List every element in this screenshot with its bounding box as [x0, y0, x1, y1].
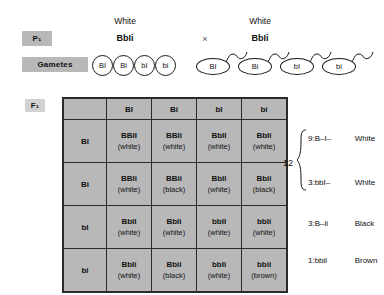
punnett-cell: bbii (brown)	[242, 249, 288, 293]
ratio-genotype: bbI–	[315, 178, 355, 187]
punnett-row-header: Bi	[63, 163, 107, 206]
punnett-cell: BbII (white)	[197, 120, 242, 163]
punnett-corner-cell	[63, 98, 107, 120]
sperm-gamete-label: bI	[280, 58, 314, 75]
punnett-square: BI Bi bI bi BI BBII (white) BBIi (white)…	[62, 97, 288, 293]
cell-phenotype: (white)	[197, 141, 241, 152]
ratio-phenotype: Black	[355, 219, 375, 228]
punnett-row: Bi BBIi (white) BBii (black) BbIi (white…	[63, 163, 287, 206]
cell-phenotype: (white)	[107, 227, 151, 238]
cell-genotype: BBii	[152, 173, 196, 184]
punnett-cell: bbII (white)	[197, 206, 242, 249]
ratio-phenotype: White	[355, 134, 375, 143]
cell-genotype: bbii	[242, 259, 286, 270]
punnett-cell: BbIi (white)	[197, 163, 242, 206]
punnett-row: BI BBII (white) BBIi (white) BbII (white…	[63, 120, 287, 163]
cell-genotype: bbIi	[242, 216, 286, 227]
punnett-cell: Bbii (black)	[242, 163, 288, 206]
cell-genotype: BBIi	[107, 173, 151, 184]
cell-phenotype: (white)	[152, 141, 196, 152]
cell-genotype: BBII	[107, 130, 151, 141]
sperm-gamete-label: Bi	[238, 58, 272, 75]
cross-symbol: ×	[198, 34, 212, 44]
punnett-row-header: bi	[63, 249, 107, 293]
cell-phenotype: (white)	[107, 270, 151, 281]
cell-phenotype: (white)	[197, 184, 241, 195]
punnett-cell: BbIi (white)	[242, 120, 288, 163]
parent2-genotype: BbIi	[215, 33, 305, 43]
ratio-genotype: bbii	[315, 256, 355, 265]
ratio-genotype: B–I–	[315, 134, 355, 143]
cell-phenotype: (white)	[197, 270, 241, 281]
sperm-gamete-label: BI	[196, 58, 230, 75]
cell-genotype: bbIi	[197, 259, 241, 270]
ratio-count: 1:	[308, 256, 315, 265]
parent1-phenotype: White	[80, 16, 170, 26]
punnett-column-header: bI	[197, 98, 242, 120]
cell-genotype: Bbii	[242, 173, 286, 184]
p1-generation-label: P₁	[22, 31, 52, 46]
ratio-count: 9:	[308, 134, 315, 143]
punnett-cell: BBIi (white)	[152, 120, 197, 163]
cell-genotype: BbIi	[197, 173, 241, 184]
ratio-genotype: B–ii	[315, 219, 355, 228]
punnett-column-header: Bi	[152, 98, 197, 120]
punnett-cell: BbIi (white)	[107, 249, 152, 293]
f1-generation-label: F₁	[25, 99, 45, 112]
cell-genotype: Bbii	[152, 259, 196, 270]
punnett-column-header: bi	[242, 98, 288, 120]
ratio-count: 3:	[308, 178, 315, 187]
cell-genotype: BbII	[107, 216, 151, 227]
cell-phenotype: (brown)	[242, 270, 286, 281]
ratio-count: 3:	[308, 219, 315, 228]
punnett-row-header: BI	[63, 120, 107, 163]
punnett-cell: Bbii (black)	[152, 249, 197, 293]
egg-gamete: bi	[155, 55, 176, 76]
punnett-column-header: BI	[107, 98, 152, 120]
gametes-label: Gametes	[22, 57, 88, 72]
cell-phenotype: (black)	[242, 184, 286, 195]
cell-phenotype: (white)	[107, 184, 151, 195]
punnett-row: bi BbIi (white) Bbii (black) bbIi (white…	[63, 249, 287, 293]
punnett-header-row: BI Bi bI bi	[63, 98, 287, 120]
ratio-entry: 9:B–I–White	[308, 134, 375, 143]
cell-genotype: BbIi	[107, 259, 151, 270]
cell-genotype: bbII	[197, 216, 241, 227]
ratio-phenotype: White	[355, 178, 375, 187]
punnett-row: bI BbII (white) BbIi (white) bbII (white…	[63, 206, 287, 249]
ratio-entry: 1:bbiiBrown	[308, 256, 377, 265]
punnett-cell: BBii (black)	[152, 163, 197, 206]
cell-genotype: BbIi	[152, 216, 196, 227]
cell-phenotype: (black)	[152, 270, 196, 281]
egg-gamete: Bi	[113, 55, 134, 76]
cell-genotype: BBIi	[152, 130, 196, 141]
grouped-total: 12	[283, 158, 293, 168]
parent1-genotype: BbIi	[80, 33, 170, 43]
egg-gamete: BI	[92, 55, 113, 76]
ratio-entry: 3:bbI–White	[308, 178, 375, 187]
cell-phenotype: (white)	[197, 227, 241, 238]
ratio-phenotype: Brown	[355, 256, 378, 265]
punnett-row-header: bI	[63, 206, 107, 249]
cell-phenotype: (white)	[152, 227, 196, 238]
egg-gamete: bI	[134, 55, 155, 76]
punnett-cell: BbII (white)	[107, 206, 152, 249]
punnett-cell: bbIi (white)	[197, 249, 242, 293]
punnett-cell: BBII (white)	[107, 120, 152, 163]
cell-genotype: BbIi	[242, 130, 286, 141]
punnett-cell: BBIi (white)	[107, 163, 152, 206]
sperm-gamete-label: bi	[322, 58, 356, 75]
ratio-entry: 3:B–iiBlack	[308, 219, 374, 228]
parent2-phenotype: White	[215, 16, 305, 26]
cell-phenotype: (white)	[242, 227, 286, 238]
punnett-cell: bbIi (white)	[242, 206, 288, 249]
cell-phenotype: (white)	[242, 141, 286, 152]
punnett-cell: BbIi (white)	[152, 206, 197, 249]
cell-phenotype: (black)	[152, 184, 196, 195]
cell-genotype: BbII	[197, 130, 241, 141]
cell-phenotype: (white)	[107, 141, 151, 152]
grouping-brace-icon	[296, 129, 308, 195]
